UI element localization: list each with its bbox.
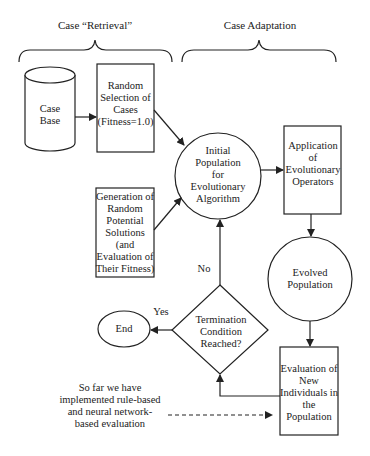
arrow-selection-to-initial [154,110,184,145]
evaluation-label: Evaluation of New Individuals in the Pop… [278,362,340,424]
evaluation-annotation: So far we have implemented rule-based an… [50,381,170,431]
flowchart-canvas: Case “Retrieval” Case Adaptation Case Ba… [0,0,370,456]
adaptation-header: Case Adaptation [185,17,335,33]
case-base-label: Case Base [25,95,75,135]
arrow-evaluation-to-termination [220,375,280,396]
adaptation-brace [182,40,336,62]
no-label: No [194,262,214,276]
initial-population-label: Initial Population for Evolutionary Algo… [180,142,256,208]
random-selection-label: Random Selection of Cases (Fitness=1.0) [97,74,154,134]
retrieval-brace [19,40,172,62]
application-label: Application of Evolutionary Operators [282,138,344,190]
arrow-generation-to-initial [154,198,181,230]
evolved-population-label: Evolved Population [275,265,345,293]
termination-label: Termination Condition Reached? [185,312,257,352]
generation-label: Generation of Random Potential Solutions… [94,190,156,275]
yes-label: Yes [148,305,174,319]
end-label: End [98,321,150,337]
retrieval-header: Case “Retrieval” [20,17,170,33]
